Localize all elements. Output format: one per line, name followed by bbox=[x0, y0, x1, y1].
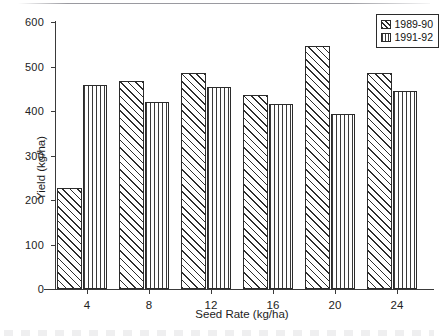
bar-1989-90-8 bbox=[119, 81, 144, 289]
bar-1991-92-12 bbox=[207, 87, 232, 289]
y-axis-tick-mark bbox=[51, 111, 56, 112]
y-axis-tick-label: 200 bbox=[25, 194, 44, 206]
plot-area: 01002003004005006004812162024 bbox=[56, 22, 428, 289]
legend-item-series-2: 1991-92 bbox=[381, 31, 433, 44]
x-axis-tick-mark bbox=[397, 289, 398, 294]
legend-label-series-1: 1989-90 bbox=[394, 19, 433, 30]
x-axis-line bbox=[44, 289, 434, 290]
bar-1991-92-4 bbox=[83, 85, 108, 289]
bar-1989-90-24 bbox=[367, 73, 392, 289]
x-axis-tick-mark bbox=[149, 289, 150, 294]
x-axis-tick-mark bbox=[273, 289, 274, 294]
y-axis-tick-label: 0 bbox=[38, 283, 44, 295]
y-axis-tick-mark bbox=[51, 22, 56, 23]
bar-1989-90-12 bbox=[181, 73, 206, 289]
y-axis-tick-label: 500 bbox=[25, 61, 44, 73]
bar-1991-92-16 bbox=[269, 104, 294, 289]
legend-label-series-2: 1991-92 bbox=[394, 32, 433, 43]
y-axis-tick-mark bbox=[51, 200, 56, 201]
bar-1991-92-24 bbox=[393, 91, 418, 289]
x-axis-tick-mark bbox=[211, 289, 212, 294]
x-axis-tick-mark bbox=[335, 289, 336, 294]
y-axis-tick-label: 400 bbox=[25, 105, 44, 117]
y-axis-tick-mark bbox=[51, 67, 56, 68]
legend-item-series-1: 1989-90 bbox=[381, 18, 433, 31]
y-axis-label: Yield (kg/ha) bbox=[35, 136, 47, 200]
scan-artifact-bottom-caption bbox=[4, 330, 434, 336]
y-axis-tick-label: 600 bbox=[25, 16, 44, 28]
y-axis-tick-label: 100 bbox=[25, 239, 44, 251]
bar-1989-90-4 bbox=[57, 188, 82, 289]
y-axis-tick-mark bbox=[51, 289, 56, 290]
y-axis-tick-label: 300 bbox=[25, 150, 44, 162]
bar-1989-90-16 bbox=[243, 95, 268, 289]
x-axis-tick-mark bbox=[87, 289, 88, 294]
bar-1991-92-8 bbox=[145, 102, 170, 289]
x-axis-label: Seed Rate (kg/ha) bbox=[56, 308, 428, 320]
legend-swatch-1989-90-icon bbox=[381, 20, 391, 29]
y-axis-tick-mark bbox=[51, 156, 56, 157]
y-axis-tick-mark bbox=[51, 245, 56, 246]
chart-legend: 1989-90 1991-92 bbox=[376, 14, 439, 48]
bar-1989-90-20 bbox=[305, 46, 330, 289]
bar-chart-figure: Yield (kg/ha) 01002003004005006004812162… bbox=[0, 0, 447, 336]
scan-artifact-top bbox=[18, 3, 430, 4]
legend-swatch-1991-92-icon bbox=[381, 33, 391, 42]
bar-1991-92-20 bbox=[331, 114, 356, 289]
